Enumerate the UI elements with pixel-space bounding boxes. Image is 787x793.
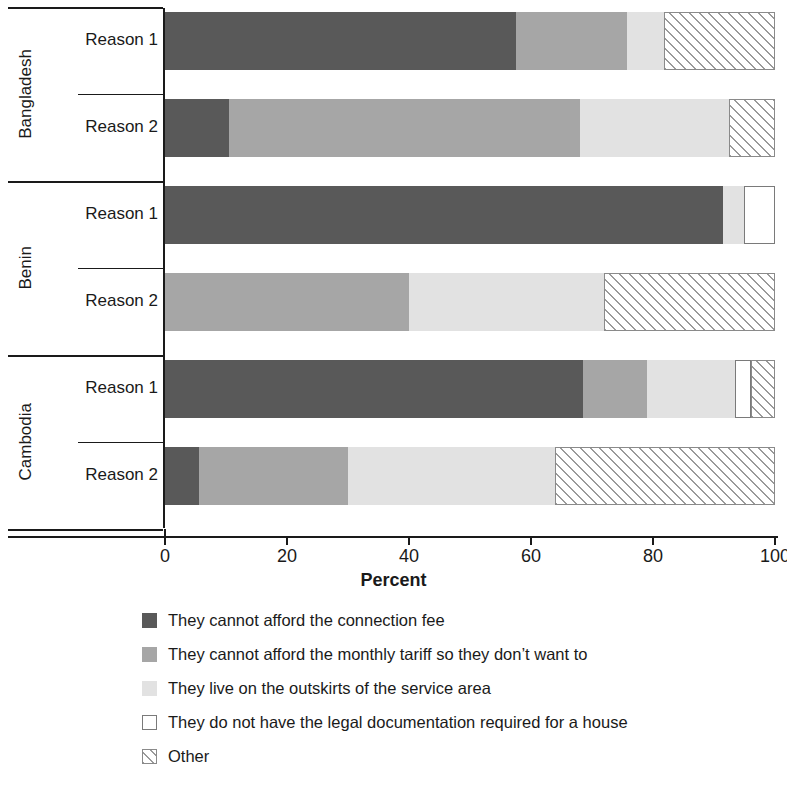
country-label-benin: Benin — [14, 181, 38, 355]
x-axis-line — [8, 536, 778, 538]
segment-connection-fee — [165, 99, 229, 157]
segment-outskirts — [723, 186, 744, 244]
x-axis-tick-label: 80 — [623, 546, 683, 567]
segment-legal-documentation — [735, 360, 750, 418]
segment-monthly-tariff — [583, 360, 647, 418]
legend-label: They cannot afford the connection fee — [168, 611, 445, 630]
reason-label: Reason 1 — [78, 378, 158, 398]
country-label-text: Bangladesh — [16, 49, 36, 139]
solid-light-gray-swatch — [142, 681, 157, 696]
country-label-text: Benin — [16, 246, 36, 289]
segment-other — [555, 447, 775, 505]
legend-label: They cannot afford the monthly tariff so… — [168, 645, 587, 664]
segment-outskirts — [627, 12, 664, 70]
bar-benin-reason-1 — [165, 186, 775, 244]
legend-item: They live on the outskirts of the servic… — [142, 671, 782, 705]
segment-other — [664, 12, 775, 70]
x-axis-title: Percent — [0, 570, 787, 591]
reason-divider — [78, 94, 163, 95]
segment-monthly-tariff — [229, 99, 580, 157]
legend-item: Other — [142, 739, 782, 773]
segment-connection-fee — [165, 447, 199, 505]
x-axis-tick-label: 20 — [257, 546, 317, 567]
bar-cambodia-reason-2 — [165, 447, 775, 505]
x-axis-tick — [164, 538, 166, 545]
legend: They cannot afford the connection feeThe… — [142, 603, 782, 773]
reason-label: Reason 2 — [78, 465, 158, 485]
bar-bangladesh-reason-1 — [165, 12, 775, 70]
segment-other — [729, 99, 775, 157]
solid-medium-gray-swatch — [142, 647, 157, 662]
x-axis-tick-label: 60 — [501, 546, 561, 567]
x-axis-origin-tick — [164, 529, 166, 537]
solid-dark-gray-swatch — [142, 613, 157, 628]
outlined-white-swatch — [142, 715, 157, 730]
reason-divider — [78, 442, 163, 443]
segment-outskirts — [409, 273, 604, 331]
segment-outskirts — [348, 447, 555, 505]
x-axis-tick — [530, 538, 532, 545]
country-label-text: Cambodia — [16, 403, 36, 481]
legend-item: They cannot afford the connection fee — [142, 603, 782, 637]
segment-legal-documentation — [744, 186, 775, 244]
country-label-bangladesh: Bangladesh — [14, 7, 38, 181]
segment-monthly-tariff — [165, 273, 409, 331]
bar-benin-reason-2 — [165, 273, 775, 331]
segment-monthly-tariff — [516, 12, 628, 70]
diagonal-hatch-swatch — [142, 749, 157, 764]
reason-label: Reason 2 — [78, 291, 158, 311]
legend-item: They cannot afford the monthly tariff so… — [142, 637, 782, 671]
country-label-cambodia: Cambodia — [14, 355, 38, 529]
plot-area: Reason 1Reason 2Reason 1Reason 2Reason 1… — [0, 0, 787, 532]
reason-label: Reason 1 — [78, 204, 158, 224]
x-axis-tick-label: 100 — [745, 546, 787, 567]
x-axis-tick — [774, 538, 776, 545]
x-axis-tick-label: 40 — [379, 546, 439, 567]
stacked-bar-chart: Reason 1Reason 2Reason 1Reason 2Reason 1… — [0, 0, 787, 793]
segment-outskirts — [580, 99, 729, 157]
segment-connection-fee — [165, 186, 723, 244]
bar-bangladesh-reason-2 — [165, 99, 775, 157]
segment-other — [604, 273, 775, 331]
reason-label: Reason 1 — [78, 30, 158, 50]
segment-outskirts — [647, 360, 735, 418]
bar-cambodia-reason-1 — [165, 360, 775, 418]
legend-label: Other — [168, 747, 209, 766]
legend-label: They live on the outskirts of the servic… — [168, 679, 491, 698]
segment-monthly-tariff — [199, 447, 348, 505]
x-axis-tick — [286, 538, 288, 545]
segment-connection-fee — [165, 12, 516, 70]
reason-label: Reason 2 — [78, 117, 158, 137]
x-axis-tick-label: 0 — [135, 546, 195, 567]
group-divider — [8, 529, 163, 531]
x-axis-tick — [652, 538, 654, 545]
legend-label: They do not have the legal documentation… — [168, 713, 628, 732]
segment-connection-fee — [165, 360, 583, 418]
reason-divider — [78, 268, 163, 269]
legend-item: They do not have the legal documentation… — [142, 705, 782, 739]
segment-other — [751, 360, 775, 418]
x-axis-tick — [408, 538, 410, 545]
